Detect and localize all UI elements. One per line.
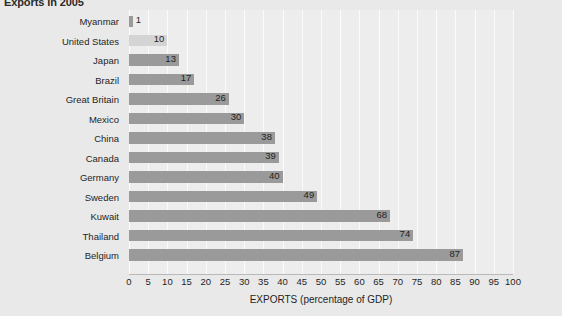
bar-value-label: 13 — [165, 53, 176, 65]
bar-china[interactable] — [129, 132, 275, 144]
bar-row[interactable]: 40 — [129, 168, 513, 187]
bar-germany[interactable] — [129, 171, 283, 183]
x-tick-label-35: 35 — [258, 276, 269, 287]
bar-mexico[interactable] — [129, 113, 244, 125]
bar-thailand[interactable] — [129, 230, 413, 242]
x-tick-label-65: 65 — [373, 276, 384, 287]
bar-row[interactable]: 17 — [129, 70, 513, 89]
bar-belgium[interactable] — [129, 249, 463, 261]
bar-row[interactable]: 39 — [129, 148, 513, 167]
gridline-100 — [513, 10, 514, 274]
bar-value-label: 49 — [304, 189, 315, 201]
category-label-canada: Canada — [86, 148, 119, 167]
chart-title: Exports in 2005 — [4, 0, 84, 8]
x-tick-label-100: 100 — [505, 276, 521, 287]
bar-chart: Exports in 2005 MyanmarUnited StatesJapa… — [0, 0, 562, 316]
bar-canada[interactable] — [129, 152, 279, 164]
bar-row[interactable]: 74 — [129, 226, 513, 245]
bar-great-britain[interactable] — [129, 93, 229, 105]
category-label-china: China — [94, 129, 119, 148]
plot-area: 1101317263038394049687487 — [129, 10, 513, 274]
bar-value-label: 10 — [154, 33, 165, 45]
x-tick-label-30: 30 — [239, 276, 250, 287]
category-label-mexico: Mexico — [89, 109, 119, 128]
x-tick-label-15: 15 — [181, 276, 192, 287]
bar-row[interactable]: 13 — [129, 51, 513, 70]
category-label-myanmar: Myanmar — [79, 12, 119, 31]
bar-kuwait[interactable] — [129, 210, 390, 222]
x-tick-label-85: 85 — [450, 276, 461, 287]
bar-rows: 1101317263038394049687487 — [129, 10, 513, 274]
bar-row[interactable]: 10 — [129, 31, 513, 50]
x-tick-label-0: 0 — [126, 276, 131, 287]
x-tick-label-45: 45 — [297, 276, 308, 287]
bar-value-label: 68 — [377, 209, 388, 221]
x-tick-label-95: 95 — [489, 276, 500, 287]
bar-value-label: 87 — [450, 248, 461, 260]
category-label-belgium: Belgium — [85, 246, 119, 265]
bar-value-label: 26 — [215, 92, 226, 104]
x-tick-label-20: 20 — [201, 276, 212, 287]
category-label-united-states: United States — [62, 31, 119, 50]
category-axis-labels: MyanmarUnited StatesJapanBrazilGreat Bri… — [0, 10, 125, 274]
x-tick-label-5: 5 — [146, 276, 151, 287]
bar-row[interactable]: 87 — [129, 246, 513, 265]
category-label-great-britain: Great Britain — [66, 90, 119, 109]
x-tick-label-70: 70 — [393, 276, 404, 287]
bar-row[interactable]: 1 — [129, 12, 513, 31]
bar-row[interactable]: 26 — [129, 90, 513, 109]
bar-value-label: 1 — [136, 14, 141, 26]
bar-value-label: 39 — [265, 150, 276, 162]
x-tick-label-90: 90 — [469, 276, 480, 287]
category-label-kuwait: Kuwait — [90, 207, 119, 226]
bar-value-label: 40 — [269, 170, 280, 182]
category-label-japan: Japan — [93, 51, 119, 70]
x-tick-label-55: 55 — [335, 276, 346, 287]
x-tick-label-60: 60 — [354, 276, 365, 287]
x-tick-label-50: 50 — [316, 276, 327, 287]
x-axis-title: EXPORTS (percentage of GDP) — [129, 294, 513, 305]
x-axis-ticks: 0510152025303540455055606570758085909510… — [129, 276, 513, 290]
bar-value-label: 74 — [400, 228, 411, 240]
category-label-thailand: Thailand — [83, 226, 119, 245]
category-label-sweden: Sweden — [85, 187, 119, 206]
bar-sweden[interactable] — [129, 191, 317, 203]
bar-row[interactable]: 38 — [129, 129, 513, 148]
bar-value-label: 17 — [181, 72, 192, 84]
category-label-germany: Germany — [80, 168, 119, 187]
bar-value-label: 38 — [261, 131, 272, 143]
bar-value-label: 30 — [231, 111, 242, 123]
x-tick-label-80: 80 — [431, 276, 442, 287]
x-tick-label-40: 40 — [277, 276, 288, 287]
category-label-brazil: Brazil — [95, 70, 119, 89]
x-tick-label-25: 25 — [220, 276, 231, 287]
x-tick-label-10: 10 — [162, 276, 173, 287]
bar-row[interactable]: 68 — [129, 207, 513, 226]
bar-row[interactable]: 30 — [129, 109, 513, 128]
x-axis-line — [129, 274, 513, 275]
x-tick-label-75: 75 — [412, 276, 423, 287]
bar-myanmar[interactable] — [129, 16, 133, 28]
bar-row[interactable]: 49 — [129, 187, 513, 206]
